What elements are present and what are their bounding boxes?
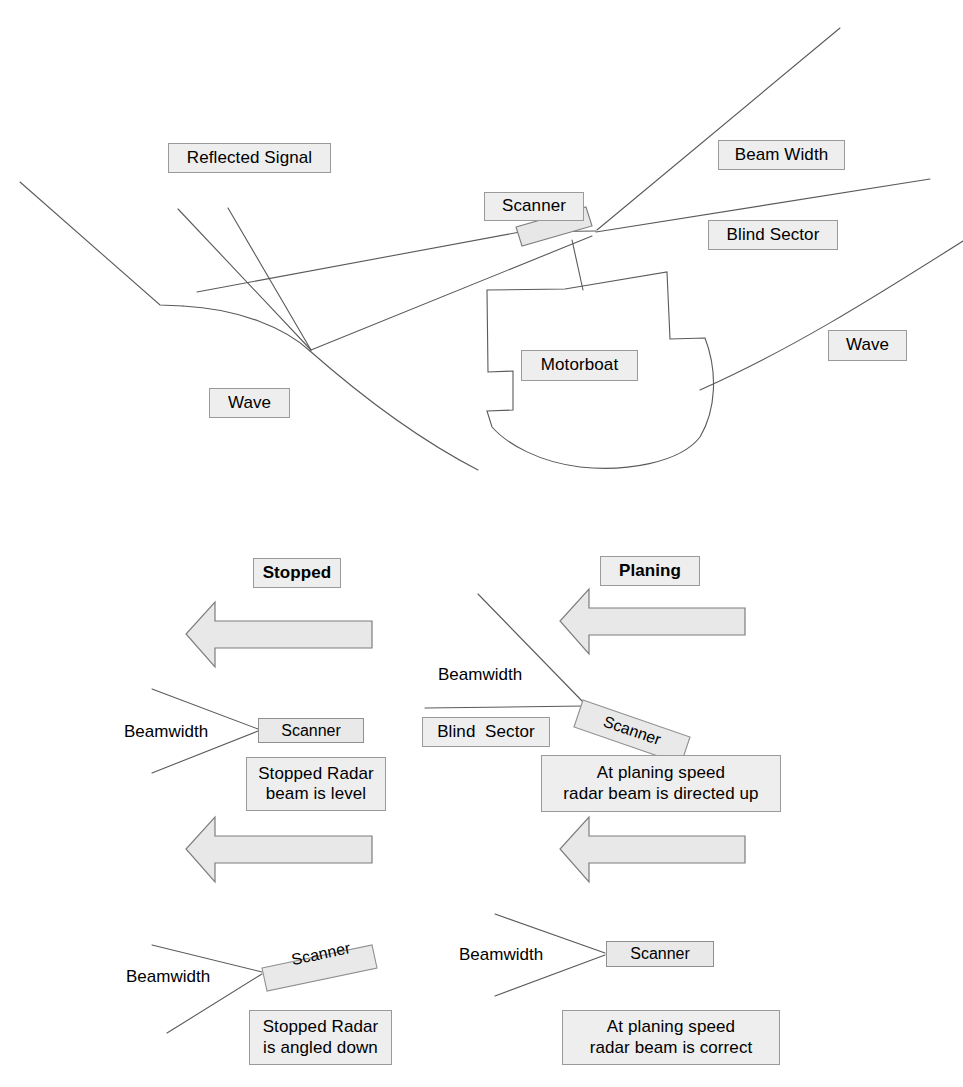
caption-line-2: beam is level bbox=[266, 784, 367, 804]
arrow-planing-correct bbox=[560, 817, 745, 882]
beamwidth-text-stopped-level: Beamwidth bbox=[124, 722, 208, 742]
caption-line-2: radar beam is directed up bbox=[563, 784, 758, 804]
label-blind-sector-panel: Blind Sector bbox=[422, 717, 550, 747]
caption-planing-up: At planing speed radar beam is directed … bbox=[541, 755, 781, 812]
caption-planing-correct: At planing speed radar beam is correct bbox=[562, 1010, 780, 1065]
caption-line-1: At planing speed bbox=[607, 1017, 735, 1037]
beamwidth-text-planing-correct: Beamwidth bbox=[459, 945, 543, 965]
panel-heading-stopped: Stopped bbox=[253, 558, 341, 588]
scanner-label-stopped-level: Scanner bbox=[258, 718, 364, 743]
caption-line-2: radar beam is correct bbox=[590, 1038, 753, 1058]
panel-heading-planing: Planing bbox=[600, 556, 700, 586]
beamwidth-text-stopped-down: Beamwidth bbox=[126, 967, 210, 987]
caption-stopped-level: Stopped Radar beam is level bbox=[246, 757, 386, 811]
scanner-label-planing-correct: Scanner bbox=[606, 941, 714, 967]
panel-vectors bbox=[0, 0, 963, 1087]
arrow-stopped-level bbox=[186, 602, 372, 667]
beamwidth-lines-planing-up bbox=[425, 594, 584, 708]
caption-line-1: At planing speed bbox=[597, 763, 725, 783]
arrow-planing-up bbox=[560, 589, 745, 654]
caption-line-2: is angled down bbox=[263, 1038, 378, 1058]
arrow-stopped-down bbox=[186, 817, 372, 882]
beamwidth-text-planing-up: Beamwidth bbox=[438, 665, 522, 685]
caption-stopped-down: Stopped Radar is angled down bbox=[249, 1010, 392, 1065]
caption-line-1: Stopped Radar bbox=[263, 1017, 379, 1037]
caption-line-1: Stopped Radar bbox=[258, 764, 374, 784]
diagram-canvas: Reflected Signal Beam Width Scanner Blin… bbox=[0, 0, 963, 1087]
beamwidth-lines-stopped-down bbox=[152, 945, 262, 1033]
